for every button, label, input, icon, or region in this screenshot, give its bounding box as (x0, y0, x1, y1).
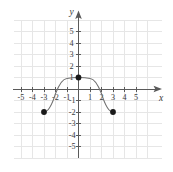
x-tick-label: -3 (41, 93, 48, 102)
coordinate-plane-figure: -5 -4 -3 -2 -1 1 2 3 4 5 5 4 3 2 1 -1 -2… (0, 0, 173, 172)
y-tick-label: -2 (69, 108, 76, 117)
x-tick-label: 4 (122, 93, 126, 102)
x-tick-label: 3 (111, 93, 115, 102)
left-endpoint-dot (41, 109, 47, 115)
y-tick-label: 4 (69, 39, 73, 48)
x-axis (13, 86, 162, 93)
x-tick-label: -4 (29, 93, 36, 102)
y-tick-label: -1 (69, 96, 76, 105)
y-axis-label: y (68, 7, 74, 17)
x-tick-label: 1 (88, 93, 92, 102)
x-axis-label: x (158, 93, 164, 103)
y-tick-label: 2 (69, 62, 73, 71)
x-tick-label: 5 (134, 93, 138, 102)
y-tick-label: -5 (69, 142, 76, 151)
parabola-graph: -5 -4 -3 -2 -1 1 2 3 4 5 5 4 3 2 1 -1 -2… (0, 0, 173, 172)
y-tick-label: -3 (69, 119, 76, 128)
y-axis (75, 11, 82, 159)
y-tick-label: 5 (69, 27, 73, 36)
y-tick-label: 3 (69, 50, 73, 59)
vertex-dot (76, 75, 82, 81)
y-tick-label: -4 (69, 131, 76, 140)
x-tick-label: -5 (18, 93, 25, 102)
right-endpoint-dot (110, 109, 116, 115)
